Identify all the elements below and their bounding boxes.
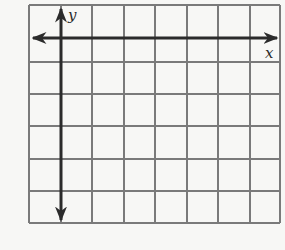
y-axis-label: y: [68, 8, 76, 23]
x-axis-label: x: [265, 46, 273, 61]
coordinate-grid: [0, 0, 285, 250]
